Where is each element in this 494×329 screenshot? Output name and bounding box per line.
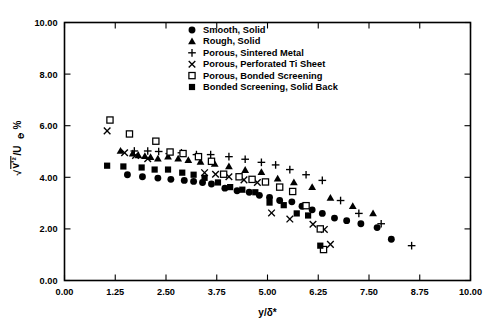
legend-marker-icon — [189, 27, 196, 34]
data-point — [262, 179, 268, 185]
y-axis-title-denominator: /U — [12, 146, 23, 156]
data-point — [290, 188, 296, 194]
data-point — [388, 236, 395, 243]
legend-item-3: Porous, Perforated Ti Sheet — [189, 59, 326, 69]
legend-label: Bonded Screening, Solid Back — [203, 82, 339, 92]
data-point — [165, 166, 171, 172]
data-point — [167, 176, 174, 183]
data-point — [152, 166, 158, 172]
x-tick-label: 1.25 — [106, 287, 124, 297]
data-point — [181, 177, 188, 184]
legend-item-2: Porous, Sintered Metal — [188, 48, 304, 58]
data-point — [107, 117, 113, 123]
x-tick-label: 3.75 — [208, 287, 226, 297]
x-tick-label: 10.00 — [459, 287, 482, 297]
y-tick-label: 2.00 — [40, 224, 58, 234]
data-point — [221, 171, 227, 177]
y-tick-label: 0.00 — [40, 276, 58, 286]
data-point — [305, 212, 311, 218]
chart-figure: 0.001.252.503.755.006.257.508.7510.00 0.… — [0, 0, 494, 329]
x-tick-label: 0.00 — [56, 287, 74, 297]
y-tick-label: 8.00 — [40, 70, 58, 80]
data-point — [343, 217, 350, 224]
data-point — [126, 131, 132, 137]
data-point — [139, 173, 146, 180]
data-point — [331, 215, 338, 222]
data-point — [246, 189, 253, 196]
data-point — [190, 178, 197, 185]
data-point — [319, 210, 326, 217]
data-point — [179, 170, 185, 176]
data-point — [236, 174, 242, 180]
scatter-plot-canvas: 0.001.252.503.755.006.257.508.7510.00 0.… — [0, 0, 494, 329]
x-tick-label: 7.50 — [360, 287, 378, 297]
data-point — [227, 184, 233, 190]
legend-item-5: Bonded Screening, Solid Back — [189, 82, 339, 92]
data-point — [139, 164, 145, 170]
data-point — [266, 199, 272, 205]
x-axis-tick-labels: 0.001.252.503.755.006.257.508.7510.00 — [56, 287, 482, 297]
y-tick-label: 10.00 — [35, 18, 58, 28]
data-point — [288, 198, 295, 205]
data-point — [239, 187, 245, 193]
data-point — [154, 175, 161, 182]
legend-item-4: Porous, Bonded Screening — [189, 71, 323, 81]
x-axis-title: y/δ* — [258, 307, 276, 318]
data-point — [153, 138, 159, 144]
legend-label: Rough, Solid — [203, 36, 261, 46]
legend-marker-icon — [189, 84, 195, 90]
y-tick-label: 6.00 — [40, 121, 58, 131]
data-point — [357, 220, 364, 227]
legend-label: Porous, Sintered Metal — [203, 48, 304, 58]
data-point — [195, 154, 201, 160]
legend-marker-icon — [189, 72, 195, 78]
data-point — [294, 210, 300, 216]
data-point — [201, 175, 207, 181]
data-point — [303, 203, 309, 209]
data-point — [277, 184, 283, 190]
x-tick-label: 2.50 — [157, 287, 175, 297]
data-point — [167, 149, 173, 155]
x-tick-label: 5.00 — [259, 287, 277, 297]
legend-label: Porous, Bonded Screening — [203, 71, 323, 81]
data-point — [317, 243, 323, 249]
y-axis-title-sqrt-sign: √ — [12, 170, 23, 176]
data-point — [374, 224, 381, 231]
y-axis-title-unit: , % — [12, 120, 23, 135]
data-point — [104, 163, 110, 169]
data-point — [252, 189, 258, 195]
data-point — [281, 202, 287, 208]
data-point — [120, 163, 126, 169]
data-point — [124, 171, 131, 178]
data-point — [317, 226, 323, 232]
data-point — [215, 179, 221, 185]
y-tick-label: 4.00 — [40, 173, 58, 183]
data-point — [191, 172, 197, 178]
data-point — [208, 158, 214, 164]
x-tick-label: 6.25 — [309, 287, 327, 297]
y-axis-title-numerator: v'² — [10, 157, 21, 169]
data-point — [208, 181, 215, 188]
data-point — [180, 150, 186, 156]
x-tick-label: 8.75 — [411, 287, 429, 297]
data-point — [249, 176, 255, 182]
legend-label: Smooth, Solid — [203, 25, 266, 35]
legend-label: Porous, Perforated Ti Sheet — [203, 59, 325, 69]
